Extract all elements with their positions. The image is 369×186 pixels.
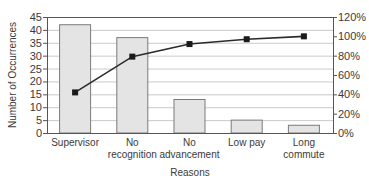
x-axis-label: Reasons [170,167,209,178]
bar-series [60,25,320,133]
bar [288,125,319,133]
x-tick-label: commute [283,149,325,160]
x-tick-label: No [126,137,139,148]
y-tick-label: 45 [30,11,42,23]
y-tick-label: 40 [30,24,42,36]
square-marker [244,36,250,42]
x-tick-label: advancement [159,149,219,160]
y-tick-label: 5 [36,114,42,126]
y-tick-label: 0 [36,127,42,139]
x-tick-label: Low pay [228,137,265,148]
y2-tick-label: 100% [338,30,366,42]
bar [117,38,148,133]
y2-tick-label: 40% [338,88,360,100]
x-tick-label: No [183,137,196,148]
bar [174,99,205,133]
cumulative-line-series [72,33,307,95]
y2-tick-label: 0% [338,127,354,139]
y-tick-label: 30 [30,50,42,62]
square-marker [129,54,135,60]
bar [60,25,91,133]
y2-tick-label: 60% [338,69,360,81]
y-tick-label: 15 [30,88,42,100]
y2-tick-label: 80% [338,50,360,62]
y-axis-label: Number of Occurrences [7,22,18,128]
y2-tick-label: 120% [338,11,366,23]
x-tick-label: recognition [108,149,157,160]
y2-tick-label: 20% [338,108,360,120]
pareto-chart: 051015202530354045 0%20%40%60%80%100%120… [0,0,369,186]
square-marker [301,33,307,39]
y-tick-label: 25 [30,63,42,75]
square-marker [72,89,78,95]
bar [231,120,262,133]
x-tick-label: Supervisor [51,137,99,148]
x-tick-label: Long [293,137,315,148]
square-marker [187,41,193,47]
y-tick-label: 35 [30,37,42,49]
left-y-axis-ticks: 051015202530354045 [30,11,47,139]
x-axis-tick-labels: SupervisorNorecognitionNoadvancementLow … [51,137,325,160]
right-y-axis-ticks: 0%20%40%60%80%100%120% [333,11,366,139]
y-tick-label: 10 [30,101,42,113]
y-tick-label: 20 [30,75,42,87]
